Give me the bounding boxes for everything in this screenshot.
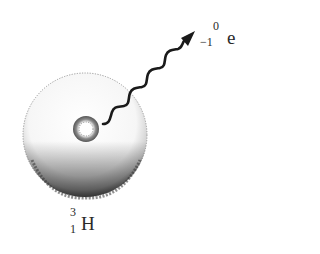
- particle-charge-number: −1: [200, 36, 213, 48]
- emitted-particle-label: 0 −1 e: [200, 18, 250, 54]
- particle-symbol: e: [227, 27, 235, 49]
- atom-label: 3 1 H: [66, 206, 116, 242]
- atom-mass-number: 3: [70, 206, 76, 218]
- atom-element-symbol: H: [81, 213, 95, 235]
- atom-atomic-number: 1: [70, 223, 76, 235]
- particle-mass-number: 0: [213, 20, 219, 32]
- nucleus-icon: [73, 116, 99, 142]
